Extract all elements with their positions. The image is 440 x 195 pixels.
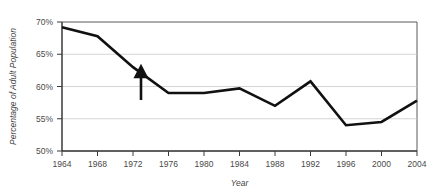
line-chart-figure: 70% 65% 60% 55% 50% 1964 1968 1972 1976 … <box>0 0 440 195</box>
x-tick-label-1984: 1984 <box>230 159 249 169</box>
y-axis-title: Percentage of Adult Population <box>8 28 18 145</box>
x-tick-label-1992: 1992 <box>301 159 320 169</box>
x-tick-label-1988: 1988 <box>266 159 285 169</box>
y-tick-label-60: 60% <box>36 82 53 92</box>
x-axis-title: Year <box>231 178 250 188</box>
x-tick-label-1976: 1976 <box>159 159 178 169</box>
x-tick-label-1996: 1996 <box>337 159 356 169</box>
y-tick-label-70: 70% <box>36 17 53 27</box>
x-tick-label-1980: 1980 <box>195 159 214 169</box>
x-tick-label-1972: 1972 <box>124 159 143 169</box>
y-tick-label-55: 55% <box>36 114 53 124</box>
x-tick-label-1968: 1968 <box>88 159 107 169</box>
y-tick-label-50: 50% <box>36 146 53 156</box>
chart-canvas: 70% 65% 60% 55% 50% 1964 1968 1972 1976 … <box>0 0 440 195</box>
x-tick-label-1964: 1964 <box>53 159 72 169</box>
x-tick-label-2004: 2004 <box>408 159 427 169</box>
x-tick-label-2000: 2000 <box>372 159 391 169</box>
y-tick-label-65: 65% <box>36 49 53 59</box>
